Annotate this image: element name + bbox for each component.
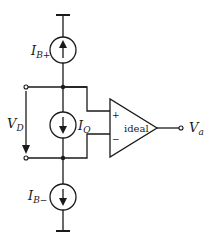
opamp-label: ideal — [124, 123, 149, 134]
wire-minus-input — [63, 134, 110, 158]
arrow-up-icon — [59, 40, 67, 48]
arrow-down-icon — [59, 126, 67, 134]
label-ib-plus: IB+ — [30, 43, 50, 60]
arrow-down-icon — [59, 198, 67, 206]
label-va: Va — [189, 120, 204, 137]
wire-plus-input — [63, 87, 110, 111]
terminal-top-left — [24, 85, 28, 89]
minus-input-sign: − — [112, 134, 120, 144]
label-vd: VD — [7, 116, 24, 133]
label-io: IO — [77, 118, 91, 135]
circuit-diagram: IB+ IO IB− VD Va ideal + − — [0, 0, 210, 238]
plus-input-sign: + — [112, 110, 120, 120]
label-ib-minus: IB− — [27, 188, 47, 205]
junction-dot — [61, 85, 65, 89]
terminal-bottom-left — [24, 156, 28, 160]
terminal-output — [179, 126, 183, 130]
junction-dot — [61, 156, 65, 160]
vd-arrowhead-icon — [22, 145, 30, 154]
